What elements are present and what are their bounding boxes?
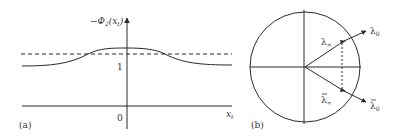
label-lambda-0-bar: λ0: [370, 100, 380, 112]
svg-text:λ∞: λ∞: [321, 95, 332, 106]
label-lambda-inf: λ∞: [321, 37, 332, 48]
arrow-lambda-0-bar: [344, 91, 366, 102]
x-axis-label: xt: [226, 109, 234, 120]
y-axis-label: −Φ2(xt): [90, 16, 124, 27]
tick-label-zero: 0: [117, 113, 123, 123]
svg-text:λ0: λ0: [370, 101, 380, 112]
label-lambda-0: λ0: [370, 26, 380, 37]
vector-lambda-inf-bar: [305, 67, 344, 91]
tick-label-one: 1: [117, 62, 123, 72]
label-lambda-inf-bar: λ∞: [321, 94, 332, 106]
panel-b-label: (b): [251, 120, 264, 130]
panel-a: −Φ2(xt) 1 0 xt (a): [19, 16, 234, 130]
panel-a-label: (a): [19, 120, 31, 130]
panel-b: λ∞ λ0 λ∞ λ0 (b): [250, 10, 380, 130]
figure: −Φ2(xt) 1 0 xt (a) λ∞ λ0 λ: [0, 0, 400, 136]
